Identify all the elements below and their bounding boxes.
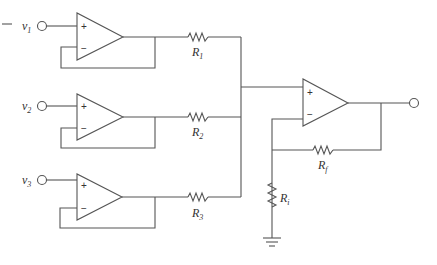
buffer-stage-1: v1 + − R1 <box>22 13 241 68</box>
minus-sign: − <box>81 203 87 214</box>
buffer-stage-2: v2 + − R2 <box>22 94 241 148</box>
buffer-stage-3: v3 + − R3 <box>22 173 241 228</box>
resistor-ri <box>268 183 276 207</box>
resistor-label-r2: R2 <box>191 125 203 141</box>
resistor-label-rf: Rf <box>317 158 329 174</box>
minus-sign: − <box>307 109 313 120</box>
resistor-label-r3: R3 <box>191 206 203 222</box>
output-stage: + − Rf Ri <box>263 79 419 246</box>
minus-sign: − <box>81 123 87 134</box>
circuit-diagram: v1 + − R1 v2 + − R2 v3 + − R3 <box>0 0 437 265</box>
input-label-v2: v2 <box>22 99 31 115</box>
input-terminal-v2[interactable] <box>38 102 47 111</box>
plus-sign: + <box>81 21 87 32</box>
resistor-label-r1: R1 <box>191 45 203 61</box>
input-terminal-v3[interactable] <box>38 176 47 185</box>
resistor-label-ri: Ri <box>279 191 290 207</box>
plus-sign: + <box>81 101 87 112</box>
resistor-r3 <box>188 193 208 201</box>
ground-icon <box>263 238 281 246</box>
resistor-rf <box>313 146 333 154</box>
resistor-r2 <box>188 113 208 121</box>
resistor-r1 <box>188 33 208 41</box>
minus-sign: − <box>81 43 87 54</box>
input-label-v3: v3 <box>22 173 31 189</box>
plus-sign: + <box>307 87 313 98</box>
plus-sign: + <box>81 180 87 191</box>
output-terminal[interactable] <box>410 99 419 108</box>
input-terminal-v1[interactable] <box>38 22 47 31</box>
input-label-v1: v1 <box>22 19 31 35</box>
